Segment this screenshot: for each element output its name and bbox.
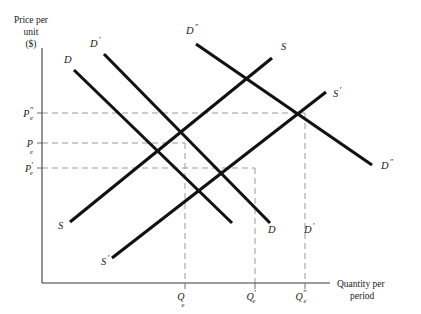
x-tick-labels: QeQ′eQ″e	[177, 288, 306, 308]
x-tick-label-q-e-double-prime: Q″e	[296, 288, 307, 304]
x-axis-title-line2: period	[350, 291, 375, 301]
x-tick-label-q-e: Qe	[177, 291, 185, 308]
demand-curves	[74, 44, 372, 223]
demand-label-d-prime-bottom: D′	[303, 221, 315, 235]
y-axis-title-line3: ($)	[25, 39, 36, 50]
supply-label-s-left: S	[58, 220, 64, 231]
chart-canvas: Price per unit ($) Quantity per period P…	[0, 0, 421, 314]
supply-demand-figure: Price per unit ($) Quantity per period P…	[0, 0, 421, 314]
x-tick-label-q-e-prime: Q′e	[246, 288, 255, 304]
demand-label-d-double-prime-right: D″	[380, 157, 394, 171]
y-axis-title: Price per unit ($)	[14, 15, 49, 50]
supply-curves	[70, 58, 326, 258]
supply-curve-s	[70, 58, 272, 222]
demand-label-d: D	[63, 54, 72, 65]
supply-label-s-top: S	[281, 41, 287, 52]
demand-label-d-bottom: D	[267, 224, 276, 235]
x-axis-title: Quantity per period	[337, 279, 386, 301]
demand-curve-d-double-prime	[196, 44, 372, 165]
demand-label-d-prime: D′	[89, 35, 101, 49]
supply-curve-s-prime	[112, 92, 326, 258]
y-tick-label-p-e-double-prime: P″e	[22, 105, 33, 121]
y-tick-label-p-e: Pe	[26, 138, 33, 155]
y-tick-label-p-e-prime: P′e	[24, 160, 33, 176]
x-axis-title-line1: Quantity per	[337, 279, 386, 289]
y-axis-title-line1: Price per	[14, 15, 49, 25]
demand-label-d-double-prime: D″	[185, 22, 199, 36]
y-axis-title-line2: unit	[24, 27, 39, 37]
supply-label-s-prime-left: S′	[101, 253, 109, 267]
supply-label-s-prime-right: S′	[333, 85, 341, 99]
y-tick-labels: P″ePeP′e	[22, 105, 33, 176]
